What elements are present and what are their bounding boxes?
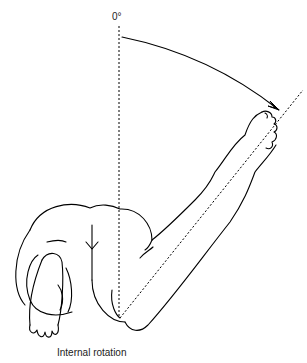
shoulders-outline — [30, 204, 152, 240]
diagram-drawing — [0, 0, 307, 363]
rotation-arc — [122, 37, 279, 110]
fingers-outline — [30, 325, 59, 337]
arm-upper-outline — [152, 112, 262, 240]
shoulder-blade-line — [47, 241, 66, 243]
extended-hand-fingers — [262, 111, 277, 148]
arm-lower-outline — [125, 145, 276, 330]
zero-degree-label: 0° — [112, 11, 122, 22]
caption: Internal rotation — [57, 347, 127, 358]
lower-back-outline — [92, 280, 125, 322]
ear-outline — [66, 268, 72, 312]
hand-edge — [30, 260, 42, 325]
thumb-nail — [265, 113, 267, 118]
internal-rotation-diagram: 0° Internal rotation — [0, 0, 307, 363]
